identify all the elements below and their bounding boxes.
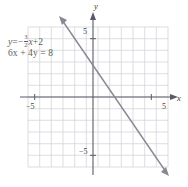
y-axis	[90, 12, 96, 175]
line-arrow-end-icon	[161, 167, 169, 176]
equation-standard-form: 6x + 4y = 8	[8, 47, 53, 60]
x-axis-tick-label-positive: 5	[162, 103, 166, 111]
equation1-sign: −	[18, 37, 23, 47]
x-axis	[20, 94, 178, 100]
equation-slope-intercept: y=−32x+2	[8, 34, 53, 47]
x-axis-label: x	[177, 94, 181, 103]
coordinate-plane	[0, 0, 188, 187]
x-axis-tick-label-negative: −5	[26, 103, 35, 111]
equation1-constant: 2	[38, 37, 43, 47]
y-axis-arrow-icon	[90, 12, 96, 20]
line-arrow-start-icon	[59, 16, 67, 25]
y-axis-tick-label-positive: 5	[83, 28, 87, 36]
y-axis-tick-label-negative: −5	[79, 148, 88, 156]
equation-annotations: y=−32x+2 6x + 4y = 8	[8, 34, 53, 60]
plotted-line	[59, 16, 169, 176]
graph-figure: y=−32x+2 6x + 4y = 8 y x 5 −5 −5 5	[0, 0, 188, 187]
y-axis-label: y	[94, 2, 98, 11]
